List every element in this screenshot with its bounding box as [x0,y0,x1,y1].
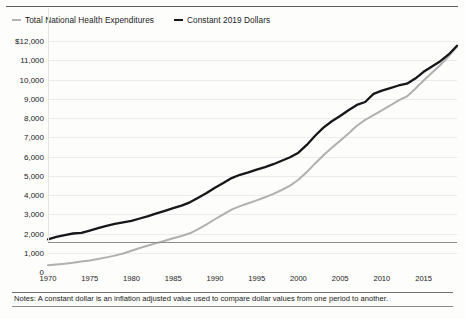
y-tick-label: 9,000 [24,94,44,103]
legend-label-nominal: Total National Health Expenditures [25,15,154,25]
y-tick-label: 8,000 [24,114,44,123]
legend-item-constant-2019-dollars: Constant 2019 Dollars [174,15,270,25]
x-tick-label: 1975 [81,274,98,283]
x-tick-label: 2005 [332,274,349,283]
chart-canvas [48,41,457,272]
x-tick-label: 2000 [290,274,307,283]
top-divider [6,6,458,7]
chart-series-lines [48,41,457,272]
legend-label-constant: Constant 2019 Dollars [187,15,270,25]
legend-swatch-icon-nominal [12,19,21,21]
y-tick-label: 1,000 [24,248,44,257]
series-line-constant-2019-dollars [48,46,457,239]
notes-bottom-divider [12,306,453,307]
series-line-total-national-health-expenditures [48,47,457,265]
x-tick-label: 1995 [248,274,265,283]
chart-legend: Total National Health Expenditures Const… [12,15,270,25]
y-tick-label: 11,000 [20,56,44,65]
y-tick-label: 6,000 [24,152,44,161]
legend-item-total-national-health-expenditures: Total National Health Expenditures [12,15,154,25]
x-tick-label: 1970 [40,274,57,283]
x-tick-label: 1990 [206,274,223,283]
x-axis-tick-labels: 1970197519801985199019952000200520102015 [0,274,465,288]
y-tick-label: $12,000 [15,37,44,46]
legend-swatch-icon-constant [174,19,183,21]
x-tick-label: 1980 [123,274,140,283]
y-axis-line [48,8,49,242]
notes-top-divider [12,292,453,293]
chart-notes: Notes: A constant dollar is an inflation… [14,294,454,303]
x-tick-label: 2010 [373,274,390,283]
y-tick-label: 5,000 [24,171,44,180]
y-tick-label: 3,000 [24,210,44,219]
x-axis-line [48,242,457,243]
y-tick-label: 10,000 [20,75,44,84]
y-axis-tick-labels: $12,00011,00010,0009,0008,0007,0006,0005… [0,30,44,280]
y-tick-label: 2,000 [24,229,44,238]
x-tick-label: 1985 [165,274,182,283]
y-tick-label: 7,000 [24,133,44,142]
x-tick-label: 2015 [415,274,432,283]
y-tick-label: 4,000 [24,191,44,200]
